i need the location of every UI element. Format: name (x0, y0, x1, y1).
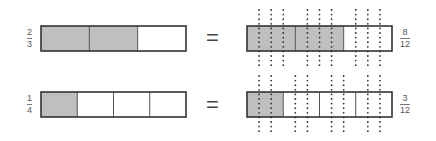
subdivision-dot (367, 75, 369, 77)
subdivision-dot (343, 89, 345, 91)
subdivision-dot (319, 64, 321, 66)
subdivision-dot (307, 94, 309, 96)
subdivision-dot (319, 23, 321, 25)
subdivision-dot (258, 126, 260, 128)
subdivision-dot (379, 126, 381, 128)
subdivision-dot (282, 64, 284, 66)
subdivision-dot (258, 107, 260, 109)
subdivision-dot (367, 121, 369, 123)
subdivision-dot (331, 84, 333, 86)
subdivision-dot (307, 37, 309, 39)
subdivision-dot (319, 32, 321, 34)
right-bar-row2-part (356, 92, 392, 117)
subdivision-dot (355, 14, 357, 16)
subdivision-dot (319, 41, 321, 43)
subdivision-dot (331, 41, 333, 43)
subdivision-dot (367, 37, 369, 39)
subdivision-dot (270, 107, 272, 109)
right-bar-row2-part (320, 92, 356, 117)
right-bar-row2-part (283, 92, 319, 117)
subdivision-dot (307, 55, 309, 57)
subdivision-dot (307, 64, 309, 66)
subdivision-dot (270, 126, 272, 128)
subdivision-dot (307, 28, 309, 30)
subdivision-dot (307, 112, 309, 114)
subdivision-dot (282, 55, 284, 57)
subdivision-dot (379, 14, 381, 16)
subdivision-dot (294, 121, 296, 123)
subdivision-dot (355, 41, 357, 43)
subdivision-dot (258, 9, 260, 11)
numerator: 3 (403, 94, 408, 103)
subdivision-dot (258, 23, 260, 25)
subdivision-dot (294, 103, 296, 105)
subdivision-dot (307, 18, 309, 20)
subdivision-dot (355, 46, 357, 48)
subdivision-dot (294, 126, 296, 128)
subdivision-dot (258, 112, 260, 114)
subdivision-dot (270, 98, 272, 100)
subdivision-dot (331, 107, 333, 109)
subdivision-dot (379, 9, 381, 11)
subdivision-dot (258, 51, 260, 53)
subdivision-dot (270, 14, 272, 16)
subdivision-dot (258, 89, 260, 91)
subdivision-dot (258, 18, 260, 20)
subdivision-dot (355, 37, 357, 39)
subdivision-dot (355, 28, 357, 30)
subdivision-dot (307, 89, 309, 91)
subdivision-dot (379, 55, 381, 57)
subdivision-dot (367, 80, 369, 82)
subdivision-dot (270, 130, 272, 132)
subdivision-dot (307, 23, 309, 25)
subdivision-dot (258, 60, 260, 62)
subdivision-dot (282, 37, 284, 39)
subdivision-dot (307, 103, 309, 105)
numerator: 2 (27, 28, 32, 37)
subdivision-dot (282, 32, 284, 34)
subdivision-dot (331, 64, 333, 66)
subdivision-dot (331, 46, 333, 48)
subdivision-dot (343, 112, 345, 114)
subdivision-dot (282, 60, 284, 62)
subdivision-dot (367, 18, 369, 20)
subdivision-dot (294, 107, 296, 109)
subdivision-dot (355, 64, 357, 66)
subdivision-dot (379, 84, 381, 86)
subdivision-dot (367, 41, 369, 43)
fraction-right-row2: 3 12 (400, 94, 410, 115)
subdivision-dot (331, 9, 333, 11)
subdivision-dot (331, 28, 333, 30)
subdivision-dot (343, 130, 345, 132)
subdivision-dot (379, 18, 381, 20)
subdivision-dot (270, 121, 272, 123)
subdivision-dot (379, 94, 381, 96)
subdivision-dot (282, 51, 284, 53)
numerator: 1 (27, 94, 32, 103)
subdivision-dot (367, 28, 369, 30)
subdivision-dot (282, 41, 284, 43)
subdivision-dot (294, 117, 296, 119)
subdivision-dot (367, 89, 369, 91)
subdivision-dot (258, 117, 260, 119)
subdivision-dot (270, 75, 272, 77)
subdivision-dot (367, 23, 369, 25)
subdivision-dot (282, 18, 284, 20)
left-bar-row2-part (41, 92, 77, 117)
subdivision-dot (282, 23, 284, 25)
subdivision-dot (270, 9, 272, 11)
subdivision-dot (367, 117, 369, 119)
subdivision-dot (331, 130, 333, 132)
subdivision-dot (307, 51, 309, 53)
subdivision-dot (307, 84, 309, 86)
subdivision-dot (307, 107, 309, 109)
subdivision-dot (319, 14, 321, 16)
subdivision-dot (307, 121, 309, 123)
numerator: 8 (403, 28, 408, 37)
subdivision-dot (307, 14, 309, 16)
subdivision-dot (258, 14, 260, 16)
subdivision-dot (307, 9, 309, 11)
subdivision-dot (258, 103, 260, 105)
subdivision-dot (379, 117, 381, 119)
subdivision-dot (367, 112, 369, 114)
